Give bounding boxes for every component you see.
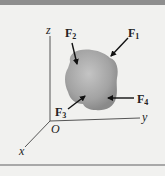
force-label-f3: F3 [55, 106, 66, 120]
rigid-body [65, 50, 118, 111]
origin-label: O [51, 123, 60, 135]
force-label-f1: F1 [128, 27, 139, 41]
x-axis-label: x [19, 145, 24, 157]
force-diagram [0, 0, 165, 176]
force-label-f4: F4 [137, 93, 148, 107]
y-axis-label: y [142, 111, 147, 123]
force-arrow-f1 [111, 38, 128, 56]
bottom-rule [0, 164, 165, 166]
z-axis-label: z [46, 24, 51, 36]
force-label-f2: F2 [65, 27, 76, 41]
x-axis [25, 121, 50, 147]
